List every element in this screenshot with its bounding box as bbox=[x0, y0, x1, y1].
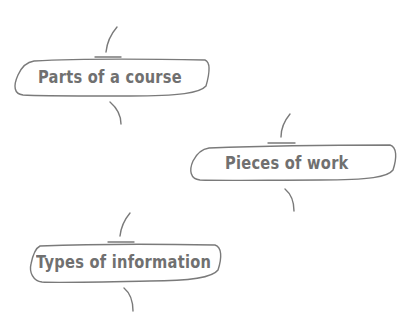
node-outline-shape bbox=[0, 0, 412, 333]
diagram-canvas: Parts of a course Pieces of work Types o… bbox=[0, 0, 412, 333]
node-types-of-information[interactable]: Types of information bbox=[0, 0, 412, 333]
node-label: Types of information bbox=[36, 252, 211, 272]
